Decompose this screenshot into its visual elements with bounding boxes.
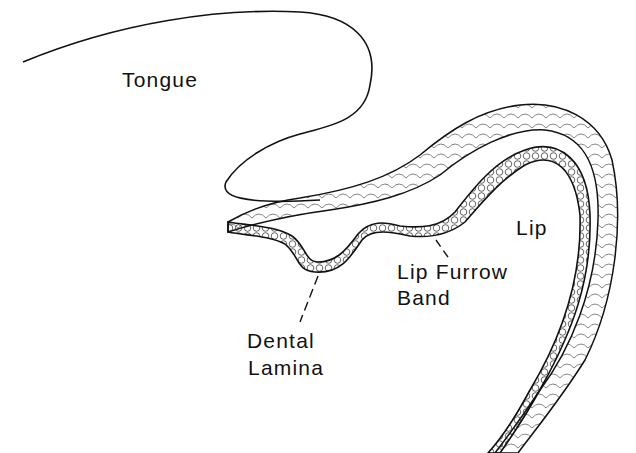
dental-lamina-leader	[300, 276, 318, 322]
label-dental-lamina-1: Dental	[247, 329, 315, 353]
label-lip-furrow-band-1: Lip Furrow	[397, 260, 508, 284]
tongue-outline	[23, 11, 372, 201]
label-lip-furrow-band-2: Band	[397, 286, 451, 310]
label-dental-lamina-2: Lamina	[248, 356, 324, 380]
label-tongue: Tongue	[122, 68, 198, 92]
diagram-canvas: Tongue Lip Lip Furrow Band Dental Lamina	[0, 0, 636, 453]
lip-furrow-leader	[436, 240, 450, 260]
label-lip: Lip	[516, 216, 548, 240]
